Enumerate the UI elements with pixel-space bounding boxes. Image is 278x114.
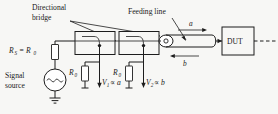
feeding-line-leader [172, 18, 186, 41]
termination-resistor-2-symbol [126, 66, 133, 81]
reflected-wave-label: b [183, 59, 187, 68]
source-resistor-symbol [52, 45, 59, 60]
directional-bridge-label-line2: bridge [32, 13, 52, 22]
source-impedance-subscript: S [15, 50, 18, 56]
source-impedance-equality-subscript: 0 [34, 50, 37, 56]
resistor1-subscript: 0 [75, 72, 78, 78]
ground-symbol [50, 98, 61, 103]
termination-resistor-1-group [82, 62, 102, 88]
directional-bridge-label-line1: Directional [32, 3, 66, 12]
signal-source-label-line2: source [5, 81, 25, 90]
termination-resistor-1-symbol [82, 66, 89, 81]
source-impedance-label: R S = R 0 [8, 46, 37, 56]
schematic-figure: Directional bridge Feeding line Signal s… [0, 0, 278, 114]
dut-label: DUT [227, 37, 243, 46]
feeding-line-label: Feeding line [128, 7, 166, 16]
source-impedance-equality: = R [19, 46, 31, 55]
directional-coupler-2 [115, 32, 159, 63]
termination-resistor-2-group [126, 62, 146, 88]
resistor1-symbol: R [68, 68, 74, 77]
v1-relation: ∝ a [110, 78, 121, 87]
v2-relation: ∝ b [154, 78, 165, 87]
resistor2-symbol: R [112, 68, 118, 77]
termination-resistor-2-label: R 0 [112, 68, 122, 78]
v2-label: V 2 ∝ b [146, 78, 165, 88]
termination-resistor-1-label: R 0 [68, 68, 78, 78]
incident-wave-arrow [178, 28, 207, 32]
feeding-line-symbol [159, 35, 222, 47]
incident-wave-label: a [189, 19, 193, 28]
signal-source-label-line1: Signal [5, 71, 24, 80]
directional-coupler-1 [75, 32, 115, 63]
reflected-wave-arrow [170, 54, 199, 58]
v1-label: V 1 ∝ a [102, 78, 121, 88]
source-impedance-symbol: R [8, 46, 14, 55]
ac-source-symbol [44, 69, 66, 91]
